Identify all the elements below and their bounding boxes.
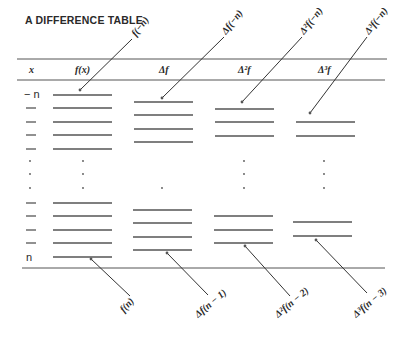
header-delta-f: Δf (158, 64, 170, 75)
label-delta-f-minus-n: Δf(−n) (218, 7, 245, 37)
diagram-title: A DIFFERENCE TABLE (25, 14, 143, 26)
arrow-delta-f-minus-n (161, 37, 224, 99)
header-x: x (28, 64, 34, 75)
arrow-delta3-f-minus-n (309, 37, 367, 114)
label-delta2-f-n-minus-2: Δ²f(n − 2) (271, 285, 311, 321)
label-f-n: f(n) (117, 295, 136, 315)
fx-column-entries-top (53, 95, 112, 149)
fx-column-entries-bottom (53, 203, 112, 257)
difference-table-diagram: A DIFFERENCE TABLE x f(x) Δf Δ²f Δ³f − n… (0, 0, 417, 340)
ellipsis-dots (29, 160, 325, 189)
delta2-f-column-entries-bottom (214, 216, 273, 243)
x-column-dashes-bottom (26, 203, 36, 243)
x-column-dashes-top (26, 108, 36, 149)
delta2-f-column-entries-top (215, 109, 274, 136)
arrow-delta2-f-n-minus-2 (244, 245, 290, 296)
row-label-minus-n: − n (24, 88, 40, 100)
delta3-f-column-entries-bottom (293, 222, 352, 236)
arrow-delta-f-n-minus-1 (166, 252, 208, 295)
header-delta2-f: Δ²f (237, 64, 252, 75)
label-delta3-f-n-minus-3: Δ³f(n − 3) (349, 285, 389, 321)
header-delta3-f: Δ³f (317, 64, 332, 75)
delta-f-column-entries-top (134, 102, 193, 142)
label-delta3-f-minus-n: Δ³f(−n) (361, 5, 390, 38)
row-label-n: n (26, 251, 32, 263)
delta-f-column-entries-bottom (133, 210, 192, 250)
label-delta2-f-minus-n: Δ²f(−n) (296, 5, 325, 38)
arrow-f-n (90, 258, 130, 296)
header-fx: f(x) (75, 64, 90, 76)
arrow-delta3-f-n-minus-3 (315, 239, 367, 293)
label-delta-f-n-minus-1: Δf(n − 1) (191, 287, 229, 321)
delta3-f-column-entries-top (296, 122, 355, 136)
